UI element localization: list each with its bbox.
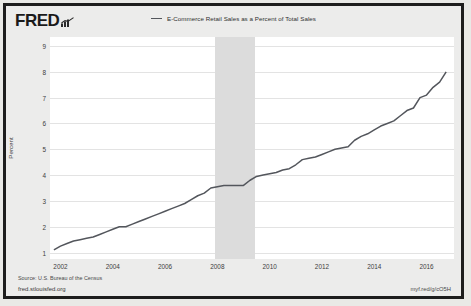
y-tick-label: 6 [42, 120, 46, 127]
y-tick-label: 8 [42, 68, 46, 75]
y-axis: Percent 123456789 [6, 37, 50, 259]
y-tick-label: 1 [42, 249, 46, 256]
plot-area [50, 37, 454, 259]
x-tick-label: 2006 [158, 263, 172, 270]
series-path [54, 72, 446, 250]
x-tick-label: 2010 [263, 263, 277, 270]
y-tick-label: 2 [42, 223, 46, 230]
legend-line-swatch [151, 18, 162, 19]
y-tick-label: 7 [42, 94, 46, 101]
chart-card: FRED E-Commerce Retail Sales as a Percen… [6, 6, 461, 296]
legend-series-label: E-Commerce Retail Sales as a Percent of … [167, 15, 316, 22]
y-tick-label: 4 [42, 172, 46, 179]
series-line-ecommerce-share [50, 37, 454, 259]
x-tick-label: 2002 [53, 263, 67, 270]
fred-site-url[interactable]: fred.stlouisfed.org [18, 286, 66, 292]
y-tick-label: 9 [42, 43, 46, 50]
y-tick-label: 3 [42, 197, 46, 204]
y-axis-title: Percent [7, 128, 14, 168]
fred-chart-screenshot: FRED E-Commerce Retail Sales as a Percen… [0, 0, 471, 306]
graph-short-url[interactable]: myf.red/g/cO5H [410, 286, 451, 292]
x-tick-label: 2012 [315, 263, 329, 270]
y-tick-label: 5 [42, 146, 46, 153]
source-note: Source: U.S. Bureau of the Census [18, 275, 102, 281]
chart-frame: FRED E-Commerce Retail Sales as a Percen… [3, 3, 464, 299]
x-tick-label: 2008 [210, 263, 224, 270]
x-tick-label: 2004 [106, 263, 120, 270]
x-tick-label: 2014 [367, 263, 381, 270]
chart-legend: E-Commerce Retail Sales as a Percent of … [6, 15, 461, 22]
x-axis: 20022004200620082010201220142016 [50, 259, 454, 275]
x-tick-label: 2016 [419, 263, 433, 270]
